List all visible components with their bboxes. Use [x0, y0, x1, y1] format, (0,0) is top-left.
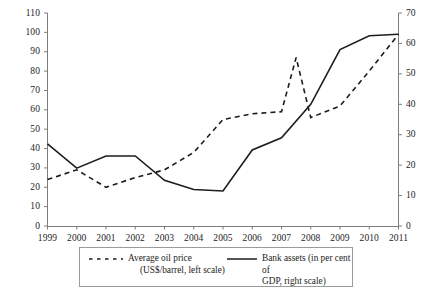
left-axis-tick-label: 0 — [8, 221, 40, 231]
legend-item-bank-assets: Bank assets (in per cent of GDP, right s… — [226, 253, 354, 288]
legend-label-bank-line2: GDP, right scale) — [226, 276, 354, 288]
right-axis-tick-label: 20 — [406, 160, 430, 170]
chart-figure: 0102030405060708090100110 01020304050607… — [0, 0, 433, 292]
x-axis-tick-label: 2002 — [119, 233, 151, 243]
right-axis-tick-label: 30 — [406, 129, 430, 139]
x-axis-tick-label: 2005 — [207, 233, 239, 243]
series-line-oil-price — [48, 34, 399, 187]
left-axis-tick-label: 80 — [8, 66, 40, 76]
right-axis-tick-label: 40 — [406, 99, 430, 109]
right-axis-tick-label: 0 — [406, 221, 430, 231]
series-line-bank-assets — [48, 34, 399, 191]
left-axis-tick-label: 40 — [8, 143, 40, 153]
right-axis-tick-label: 50 — [406, 68, 430, 78]
right-axis-tick-label: 60 — [406, 38, 430, 48]
dashed-line-swatch-icon — [88, 253, 124, 264]
solid-line-swatch-icon — [226, 253, 258, 264]
left-axis-tick-label: 110 — [8, 8, 40, 18]
x-axis-tick-label: 2004 — [178, 233, 210, 243]
chart-legend: Average oil price (US$/barrel, left scal… — [79, 247, 353, 287]
x-axis-tick-label: 2000 — [61, 233, 93, 243]
left-axis-tick-label: 30 — [8, 162, 40, 172]
chart-axes — [48, 13, 399, 227]
right-axis-tick-label: 10 — [406, 190, 430, 200]
x-axis-tick-label: 2009 — [324, 233, 356, 243]
left-axis-tick-label: 60 — [8, 104, 40, 114]
left-axis-tick-label: 50 — [8, 124, 40, 134]
x-axis-tick-label: 2006 — [236, 233, 268, 243]
legend-item-oil-price: Average oil price (US$/barrel, left scal… — [88, 253, 228, 276]
x-axis-tick-label: 2010 — [353, 233, 385, 243]
x-axis-tick-label: 2001 — [90, 233, 122, 243]
left-axis-tick-label: 20 — [8, 182, 40, 192]
x-axis-tick-label: 2007 — [266, 233, 298, 243]
x-axis-tick-label: 2008 — [295, 233, 327, 243]
left-axis-tick-label: 100 — [8, 27, 40, 37]
left-axis-tick-label: 70 — [8, 85, 40, 95]
x-axis-tick-label: 2011 — [383, 233, 415, 243]
right-axis-ticks — [399, 13, 403, 226]
left-axis-tick-label: 90 — [8, 46, 40, 56]
chart-series-lines — [48, 34, 399, 191]
legend-label-oil-line2: (US$/barrel, left scale) — [88, 265, 228, 277]
right-axis-tick-label: 70 — [406, 8, 430, 18]
x-axis-tick-label: 1999 — [32, 233, 64, 243]
left-axis-ticks — [44, 13, 48, 226]
x-axis-tick-label: 2003 — [149, 233, 181, 243]
left-axis-tick-label: 10 — [8, 201, 40, 211]
